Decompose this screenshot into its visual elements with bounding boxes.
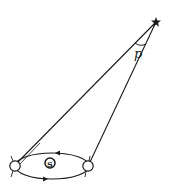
parallax-diagram: p S (0, 0, 173, 189)
orbit-arrow-top-icon (55, 151, 60, 156)
sun-label: S (47, 159, 53, 169)
parallax-angle-arc (135, 43, 146, 45)
orbit-arrow-bottom-icon (43, 177, 48, 182)
parallax-angle-label: p (134, 46, 143, 61)
sight-line-right (90, 22, 156, 162)
earth-left (10, 156, 20, 177)
sun-icon: S (45, 158, 55, 169)
